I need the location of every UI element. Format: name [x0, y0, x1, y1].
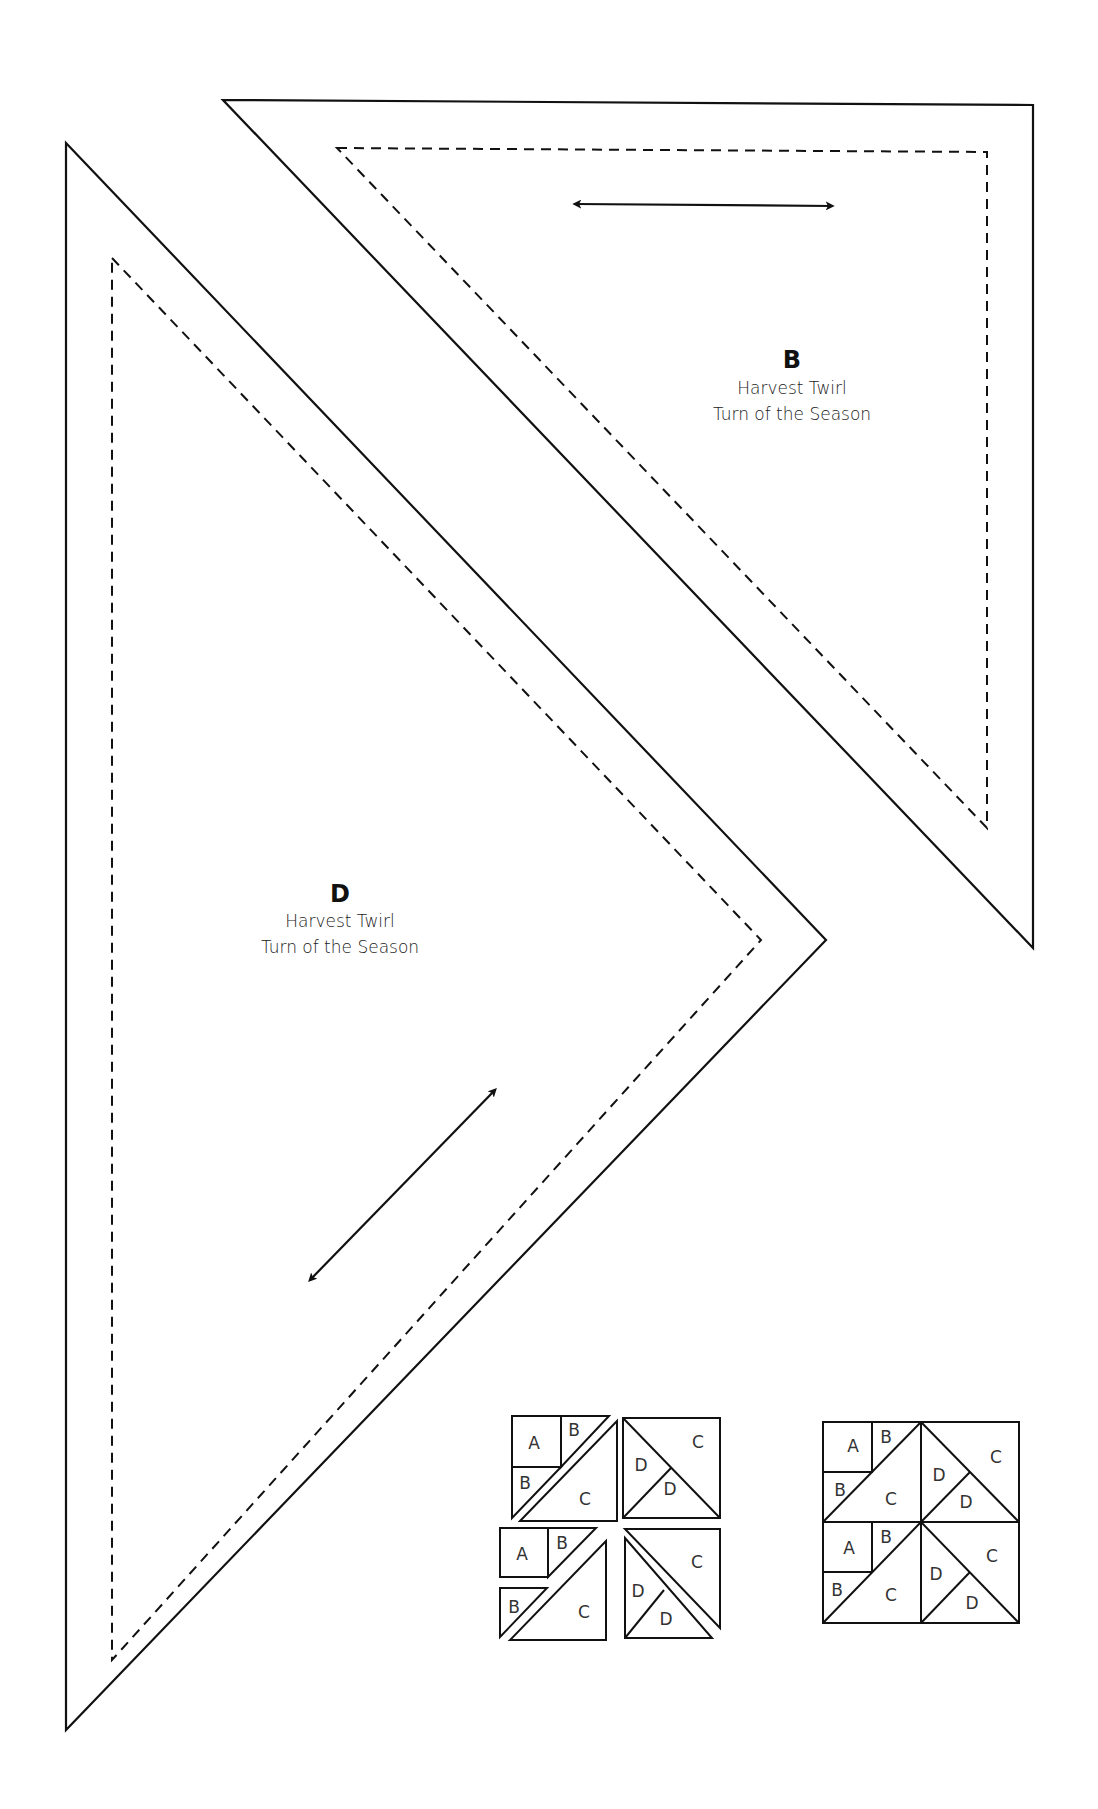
- template-b: B Harvest Twirl Turn of the Season: [223, 100, 1033, 948]
- piece-label: C: [990, 1447, 1002, 1467]
- piece-label: B: [568, 1420, 580, 1440]
- piece-label: C: [579, 1489, 591, 1509]
- piece-label: C: [691, 1552, 703, 1572]
- template-b-collection-name: Turn of the Season: [713, 404, 871, 424]
- piece-label: B: [556, 1533, 568, 1553]
- template-b-grainline-arrow-icon: [575, 204, 832, 206]
- template-d-collection-name: Turn of the Season: [261, 937, 419, 957]
- piece-label: A: [516, 1544, 528, 1564]
- pattern-sheet: D Harvest Twirl Turn of the Season B Har…: [0, 0, 1098, 1809]
- piece-label: D: [959, 1492, 972, 1512]
- piece-label: C: [885, 1489, 897, 1509]
- exploded-quadrant-bottom-right: C D D: [625, 1529, 720, 1638]
- piece-label: D: [631, 1581, 644, 1601]
- piece-label: B: [831, 1580, 843, 1600]
- piece-label: B: [508, 1597, 520, 1617]
- piece-label: B: [519, 1473, 531, 1493]
- template-b-cutting-line: [223, 100, 1033, 948]
- exploded-block-diagram: A B B C C D D A B B C: [500, 1416, 720, 1640]
- exploded-quadrant-bottom-left: A B B C: [500, 1528, 606, 1640]
- piece-label: D: [932, 1465, 945, 1485]
- piece-label: C: [692, 1432, 704, 1452]
- template-d-pattern-name: Harvest Twirl: [285, 911, 395, 931]
- template-d-grainline-arrow-icon: [310, 1090, 495, 1280]
- piece-label: B: [834, 1480, 846, 1500]
- piece-label: A: [843, 1538, 855, 1558]
- template-b-letter: B: [783, 346, 801, 374]
- template-d-letter: D: [330, 880, 350, 908]
- piece-label: B: [880, 1527, 892, 1547]
- piece-label: D: [634, 1455, 647, 1475]
- piece-label: D: [663, 1479, 676, 1499]
- piece-label: C: [885, 1585, 897, 1605]
- template-b-pattern-name: Harvest Twirl: [737, 378, 847, 398]
- piece-label: B: [880, 1427, 892, 1447]
- piece-label: C: [578, 1602, 590, 1622]
- assembled-block-diagram: A B B C C D D A B B C C D D: [823, 1422, 1019, 1623]
- piece-label: D: [929, 1564, 942, 1584]
- piece-label: C: [986, 1546, 998, 1566]
- piece-label: A: [528, 1433, 540, 1453]
- template-b-seam-line: [337, 148, 987, 828]
- exploded-quadrant-top-right: C D D: [623, 1418, 720, 1518]
- piece-label: D: [965, 1593, 978, 1613]
- piece-label: D: [659, 1609, 672, 1629]
- piece-label: A: [847, 1436, 859, 1456]
- exploded-quadrant-top-left: A B B C: [512, 1416, 617, 1521]
